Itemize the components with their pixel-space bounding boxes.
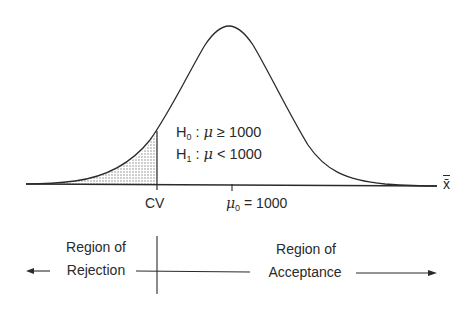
mean-value: 1000 xyxy=(256,195,287,211)
h1-relation: < xyxy=(217,146,225,162)
h0-symbol: H xyxy=(176,124,186,140)
left-arrowhead-icon xyxy=(26,268,34,274)
h1-value: 1000 xyxy=(230,146,262,162)
rejection-region-line1: Region of xyxy=(56,239,136,255)
h1-symbol: H xyxy=(176,146,186,162)
h1-subscript: 1 xyxy=(186,154,191,164)
null-hypothesis: H0 : μ ≥ 1000 xyxy=(176,124,261,142)
mean-relation: = xyxy=(244,195,252,211)
axis-label-xbar: x̄ xyxy=(443,176,450,192)
h0-relation: ≥ xyxy=(217,124,225,140)
h0-subscript: 0 xyxy=(186,132,191,142)
critical-value-label: CV xyxy=(145,195,164,211)
boundary-line-left xyxy=(136,271,250,272)
acceptance-region-line2: Acceptance xyxy=(256,264,354,280)
h0-param: μ xyxy=(204,124,213,140)
rejection-region-line2: Rejection xyxy=(56,262,136,278)
h1-param: μ xyxy=(204,146,213,162)
mean-symbol: μ xyxy=(226,195,235,211)
rejection-area xyxy=(60,131,157,184)
mean-label: μ0 = 1000 xyxy=(226,195,287,213)
acceptance-region-line1: Region of xyxy=(258,241,354,257)
h0-value: 1000 xyxy=(229,124,261,140)
mean-subscript: 0 xyxy=(235,203,240,213)
right-arrowhead-icon xyxy=(428,270,437,276)
alternative-hypothesis: H1 : μ < 1000 xyxy=(176,146,262,164)
